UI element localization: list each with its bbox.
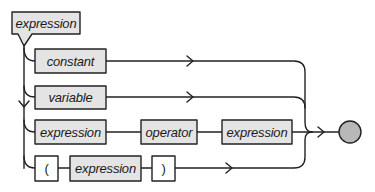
end-circle bbox=[339, 121, 361, 143]
start-expression-label: expression bbox=[12, 12, 80, 34]
expression-box-left: expression bbox=[35, 120, 106, 144]
operator-box: operator bbox=[141, 120, 197, 144]
constant-box: constant bbox=[35, 49, 106, 73]
expression-box-right: expression bbox=[222, 120, 292, 144]
variable-box: variable bbox=[35, 86, 106, 109]
open-paren-box: ( bbox=[35, 156, 58, 181]
expression-box-paren: expression bbox=[70, 156, 141, 181]
close-paren-box: ) bbox=[152, 156, 175, 181]
